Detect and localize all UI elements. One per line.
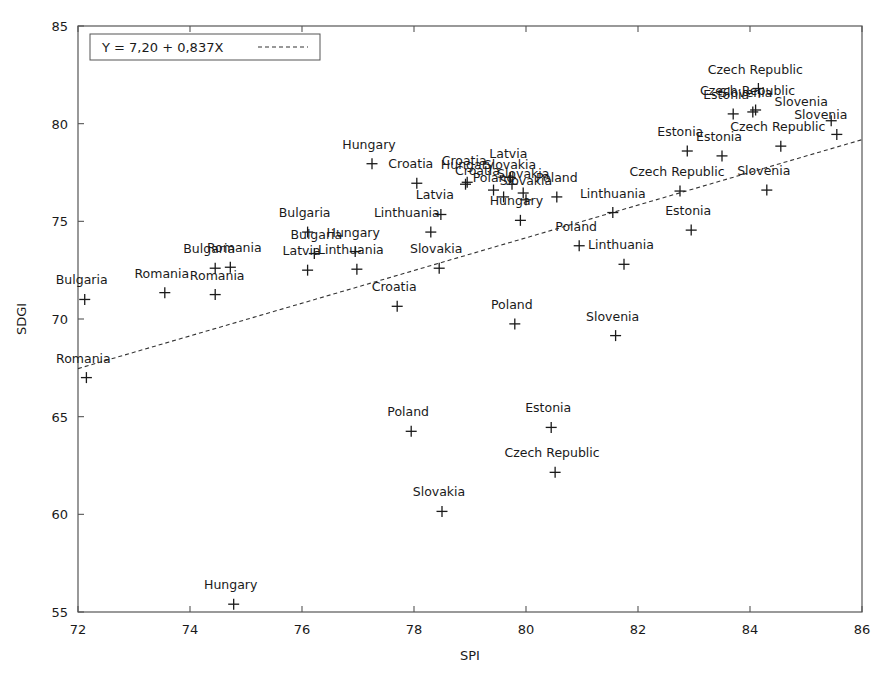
point-label: Czech Republic xyxy=(708,62,803,77)
legend-equation-label: Y = 7,20 + 0,837X xyxy=(101,40,223,55)
data-point: Romania xyxy=(134,266,189,299)
point-label: Czech Republic xyxy=(629,164,724,179)
point-label: Poland xyxy=(387,404,429,419)
point-label: Linthuania xyxy=(588,237,654,252)
point-label: Linthuania xyxy=(374,205,440,220)
point-label: Slovenia xyxy=(586,309,639,324)
point-label: Romania xyxy=(56,351,111,366)
data-point: Poland xyxy=(491,297,533,330)
point-label: Hungary xyxy=(327,225,381,240)
point-label: Poland xyxy=(555,219,597,234)
x-tick-label: 78 xyxy=(406,622,423,637)
point-label: Romania xyxy=(207,240,262,255)
data-point: Czech Republic xyxy=(505,445,600,478)
y-axis-title: SDGI xyxy=(14,303,29,335)
point-label: Hungary xyxy=(342,137,396,152)
data-point: Hungary xyxy=(490,193,544,226)
point-label: Slovenia xyxy=(737,163,790,178)
point-label: Estonia xyxy=(525,400,571,415)
data-point: Poland xyxy=(387,404,429,437)
data-point: Romania xyxy=(190,268,245,301)
point-label: Hungary xyxy=(204,577,258,592)
point-label: Linthuania xyxy=(318,242,384,257)
point-label: Slovakia xyxy=(413,484,465,499)
data-point: Estonia xyxy=(525,400,571,433)
point-label: Bulgaria xyxy=(56,272,108,287)
data-point: Bulgaria xyxy=(56,272,108,305)
data-point: Linthuania xyxy=(318,242,384,275)
x-tick-label: 80 xyxy=(518,622,535,637)
y-tick-label: 60 xyxy=(51,507,68,522)
data-point: Slovakia xyxy=(410,241,462,274)
plot-frame xyxy=(78,26,862,612)
y-tick-label: 80 xyxy=(51,117,68,132)
point-label: Latvia xyxy=(416,187,454,202)
x-tick-label: 84 xyxy=(742,622,759,637)
point-label: Estonia xyxy=(665,203,711,218)
point-label: Hungary xyxy=(490,193,544,208)
point-label: Bulgaria xyxy=(279,205,331,220)
x-tick-label: 74 xyxy=(182,622,199,637)
point-label: Poland xyxy=(536,170,578,185)
y-tick-label: 85 xyxy=(51,19,68,34)
y-tick-label: 65 xyxy=(51,410,68,425)
point-label: Poland xyxy=(491,297,533,312)
data-point: Croatia xyxy=(372,279,417,312)
point-label: Slovenia xyxy=(794,107,847,122)
y-tick-label: 55 xyxy=(51,605,68,620)
point-label: Linthuania xyxy=(580,186,646,201)
x-tick-label: 86 xyxy=(854,622,871,637)
data-point: Latvia xyxy=(283,243,321,275)
data-point: Linthuania xyxy=(580,186,646,219)
data-point: Slovakia xyxy=(413,484,465,517)
data-point: Estonia xyxy=(665,203,711,236)
point-label: Romania xyxy=(190,268,245,283)
data-point: Linthuania xyxy=(588,237,654,270)
point-label: Croatia xyxy=(388,156,433,171)
y-tick-label: 70 xyxy=(51,312,68,327)
data-point: Czech Republic xyxy=(730,119,825,152)
point-label: Croatia xyxy=(372,279,417,294)
point-label: Slovakia xyxy=(410,241,462,256)
chart-canvas: 727476788082848655606570758085SPISDGIBul… xyxy=(0,0,890,685)
x-tick-label: 76 xyxy=(294,622,311,637)
x-tick-label: 72 xyxy=(70,622,87,637)
point-label: Romania xyxy=(134,266,189,281)
scatter-chart: 727476788082848655606570758085SPISDGIBul… xyxy=(0,0,890,685)
data-point: Croatia xyxy=(388,156,433,189)
x-axis-title: SPI xyxy=(460,648,480,663)
data-point: Hungary xyxy=(204,577,258,610)
data-point: Linthuania xyxy=(374,205,440,238)
y-tick-label: 75 xyxy=(51,214,68,229)
x-tick-label: 82 xyxy=(630,622,647,637)
point-label: Czech Republic xyxy=(505,445,600,460)
data-point: Romania xyxy=(56,351,111,384)
data-point: Slovenia xyxy=(586,309,639,342)
data-point: Slovenia xyxy=(737,163,790,196)
